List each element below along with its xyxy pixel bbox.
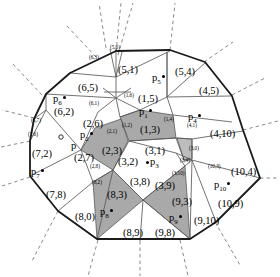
point-label-p6: p6 <box>53 93 66 107</box>
point-dot-icon <box>90 132 93 135</box>
edge-label-e-3-4: (3,4) <box>180 157 190 163</box>
dashed-ray-top-5 <box>170 3 175 50</box>
point-label-p10: p10 <box>214 179 230 193</box>
cell-label-c-3-1: (3,1) <box>145 145 165 156</box>
cell-label-c-3-2: (3,2) <box>118 156 138 167</box>
dashed-ray-left-4 <box>2 177 30 186</box>
edge-label-e-3-0: (3,0) <box>189 145 199 151</box>
point-label-subscript: 1 <box>144 112 148 120</box>
point-dot-icon <box>162 75 165 78</box>
dashed-ray-right-2 <box>243 121 278 130</box>
cell-label-c-4-5: (4,5) <box>199 85 219 96</box>
point-label-subscript: 9 <box>174 218 178 226</box>
point-dot-icon <box>41 169 44 172</box>
point-dot-icon <box>227 182 230 185</box>
cell-label-c-9-3: (9,3) <box>172 196 192 207</box>
edge-label-e-1-6: (1,6) <box>124 92 134 98</box>
interior-line-19 <box>173 115 232 122</box>
dashed-ray-right-1 <box>232 78 265 95</box>
cell-label-c-5-1: (5,1) <box>118 64 138 75</box>
cell-label-c-4-10: (4,10) <box>210 128 235 139</box>
point-marker-p <box>59 135 63 139</box>
point-label-p7: p7 <box>31 166 44 180</box>
cell-label-c-9-10: (9,10) <box>194 215 219 226</box>
point-label-p8: p8 <box>100 206 113 220</box>
cell-label-c-5-4: (5,4) <box>175 66 195 77</box>
cell-label-c-3-8: (3,8) <box>130 176 150 187</box>
cell-label-c-1-5: (1,5) <box>138 93 158 104</box>
cell-label-c-3-9: (3,9) <box>155 180 175 191</box>
edge-label-e-7-6: (7,6) <box>28 131 38 137</box>
dashed-ray-bottom-5 <box>215 222 240 265</box>
edge-label-e-1-2: (1,2) <box>122 122 132 128</box>
cell-label-c-8-9: (8,9) <box>123 227 143 238</box>
interior-line-7 <box>103 88 116 98</box>
point-label-subscript: 6 <box>58 99 62 107</box>
point-dot-icon <box>146 161 149 164</box>
cell-label-c-8-3: (8,3) <box>107 189 127 200</box>
point-label-subscript: 2 <box>85 135 89 143</box>
interior-line-18 <box>167 96 231 97</box>
cell-label-c-8-0: (8,0) <box>75 211 95 222</box>
point-dot-icon <box>63 96 66 99</box>
point-label-p9: p9 <box>169 212 182 226</box>
point-label-p2: p2 <box>80 129 93 143</box>
interior-line-10 <box>98 98 116 112</box>
edge-label-e-5-6: (5,6) <box>110 44 120 50</box>
cell-label-c-2-3: (2,3) <box>102 145 122 156</box>
point-label-base: p <box>71 140 76 151</box>
edge-label-e-10-3: (10,3) <box>208 163 221 169</box>
interior-line-11 <box>116 98 120 117</box>
point-marker-group <box>59 135 63 139</box>
cell-label-c-10-9: (10,9) <box>218 198 243 209</box>
edge-label-e-1-4: (1,4) <box>164 116 174 122</box>
dashed-ray-top-6 <box>204 42 233 62</box>
point-dot-icon <box>149 109 152 112</box>
interior-line-12 <box>116 98 140 110</box>
dashed-ray-left-3 <box>1 141 30 147</box>
point-label-p: p <box>71 140 76 151</box>
cell-label-c-9-8: (9,8) <box>155 227 175 238</box>
interior-line-1 <box>70 73 116 77</box>
point-label-p1: p1 <box>139 106 152 120</box>
dashed-ray-left-2 <box>2 110 34 118</box>
edge-label-e-2-1: (2,1) <box>107 128 117 134</box>
dashed-ray-left-1 <box>12 63 42 95</box>
point-dot-icon <box>179 215 182 218</box>
cell-label-c-7-2: (7,2) <box>32 148 52 159</box>
point-label-subscript: 8 <box>105 212 109 220</box>
point-label-p3: p3 <box>146 156 159 170</box>
dashed-ray-bottom-2 <box>88 240 98 276</box>
point-dot-icon <box>110 209 113 212</box>
dashed-ray-bottom-1 <box>31 211 58 263</box>
edge-label-e-6-1: (6,1) <box>89 100 99 106</box>
dashed-ray-top-2 <box>99 3 106 48</box>
point-label-subscript: 10 <box>219 185 226 193</box>
edge-label-e-8-2: (8,2) <box>92 179 102 185</box>
point-label-subscript: 7 <box>36 172 40 180</box>
cell-label-c-6-5: (6,5) <box>78 82 98 93</box>
cell-label-c-10-4: (10,4) <box>231 166 256 177</box>
cell-label-c-7-8: (7,8) <box>46 189 66 200</box>
edge-label-e-6-7: (6,7) <box>31 117 41 123</box>
dashed-ray-bottom-4 <box>180 240 188 276</box>
point-label-subscript: 5 <box>157 78 161 86</box>
cell-label-c-6-2: (6,2) <box>54 106 74 117</box>
edge-label-e-2-8: (2,8) <box>90 163 100 169</box>
point-label-subscript: 3 <box>155 162 159 170</box>
geometry-figure: (5,1)(5,4)(4,5)(6,5)(1,5)(6,2)(2,6)(1,3)… <box>0 0 280 277</box>
interior-line-26 <box>192 160 216 222</box>
cell-label-c-2-6: (2,6) <box>83 118 103 129</box>
cell-label-c-2-7: (2,7) <box>74 152 94 163</box>
point-label-p5: p5 <box>152 72 165 86</box>
dashed-ray-top-1 <box>66 25 96 57</box>
edge-label-e-3-10: (3,10) <box>172 170 185 176</box>
edge-label-e-4-1: (4,1) <box>187 122 197 128</box>
edge-label-e-6-3: (6,3) <box>89 54 99 60</box>
point-dot-icon <box>198 114 201 117</box>
interior-line-17 <box>167 97 173 115</box>
cell-label-c-1-3: (1,3) <box>140 124 160 135</box>
